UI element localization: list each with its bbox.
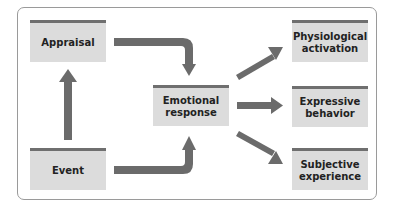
arrow-event-to-appraisal bbox=[59, 69, 77, 140]
node-physiological-activation: Physiological activation bbox=[292, 20, 368, 62]
node-label: Expressive behavior bbox=[300, 96, 361, 120]
arrow-to-expressive-behavior bbox=[237, 97, 283, 114]
node-label: Appraisal bbox=[41, 37, 94, 49]
node-label: Event bbox=[52, 165, 84, 177]
arrow-to-physiological-activation bbox=[236, 47, 283, 80]
node-expressive-behavior: Expressive behavior bbox=[292, 86, 368, 127]
node-appraisal: Appraisal bbox=[30, 20, 106, 62]
arrow-appraisal-to-emotional-response bbox=[114, 38, 196, 76]
node-emotional-response: Emotional response bbox=[153, 85, 229, 126]
node-label: Subjective experience bbox=[299, 159, 361, 183]
node-event: Event bbox=[30, 148, 106, 190]
arrow-event-to-emotional-response bbox=[114, 136, 196, 174]
arrow-to-subjective-experience bbox=[236, 131, 283, 164]
node-label: Emotional response bbox=[163, 95, 220, 119]
node-subjective-experience: Subjective experience bbox=[292, 148, 368, 190]
node-label: Physiological activation bbox=[293, 31, 367, 55]
